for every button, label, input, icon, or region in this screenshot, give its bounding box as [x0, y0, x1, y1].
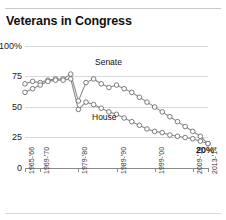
- data-point: [91, 77, 96, 82]
- data-point: [183, 124, 188, 129]
- x-tick-label: 1969-'70: [43, 147, 50, 174]
- data-point: [30, 86, 35, 91]
- data-point: [23, 82, 28, 87]
- series-label-senate: Senate: [95, 58, 122, 67]
- data-point: [61, 78, 66, 83]
- data-point: [114, 83, 119, 88]
- data-point: [145, 100, 150, 105]
- x-tick-label: 1999-'00: [158, 147, 165, 174]
- data-point: [190, 136, 195, 141]
- data-point: [160, 110, 165, 115]
- bottom-divider: [5, 213, 221, 214]
- data-point: [152, 129, 157, 134]
- x-axis: 1965-'661969-'701979-'801989-'901999-'00…: [25, 168, 208, 216]
- data-point: [145, 127, 150, 132]
- x-tick-label: 2013-'14: [211, 147, 218, 174]
- x-tick-label: 1979-'80: [81, 147, 88, 174]
- x-tick-mark: [40, 168, 41, 172]
- data-point: [122, 116, 127, 121]
- data-point: [198, 139, 203, 144]
- data-point: [129, 90, 134, 95]
- data-point: [46, 79, 51, 84]
- data-point: [91, 102, 96, 107]
- data-point: [190, 129, 195, 134]
- y-tick-label: 0: [17, 164, 22, 173]
- data-point: [38, 83, 43, 88]
- x-tick-mark: [193, 168, 194, 172]
- top-divider: [5, 8, 221, 9]
- data-point: [175, 134, 180, 139]
- series-markers: [23, 72, 211, 146]
- data-point: [68, 72, 73, 77]
- x-tick-mark: [117, 168, 118, 172]
- x-tick-mark: [155, 168, 156, 172]
- data-point: [175, 119, 180, 124]
- y-tick-label: 75: [12, 72, 22, 81]
- x-tick-mark: [208, 168, 209, 172]
- data-point: [183, 135, 188, 140]
- y-tick-label: 25: [12, 133, 22, 142]
- data-point: [53, 78, 58, 83]
- data-point: [23, 90, 28, 95]
- data-point: [99, 106, 104, 111]
- x-tick-label: 2009-'10: [196, 147, 203, 174]
- x-tick-mark: [78, 168, 79, 172]
- data-point: [84, 100, 89, 105]
- data-point: [30, 79, 35, 84]
- data-point: [129, 119, 134, 124]
- data-point: [84, 80, 89, 85]
- data-point: [152, 105, 157, 110]
- x-tick-mark: [25, 168, 26, 172]
- data-point: [160, 130, 165, 135]
- data-point: [122, 86, 127, 91]
- data-point: [137, 123, 142, 128]
- data-point: [99, 82, 104, 87]
- data-point: [198, 134, 203, 139]
- data-point: [137, 95, 142, 100]
- x-tick-label: 1989-'90: [120, 147, 127, 174]
- y-tick-label: 50: [12, 103, 22, 112]
- x-tick-label: 1965-'66: [28, 147, 35, 174]
- y-tick-label: 100%: [0, 42, 22, 51]
- data-point: [168, 133, 173, 138]
- y-axis-labels: 100% 75 50 25 0: [0, 46, 22, 176]
- data-point: [76, 99, 81, 104]
- chart-title: Veterans in Congress: [6, 14, 132, 28]
- data-point: [107, 85, 112, 90]
- series-label-house: House: [92, 113, 117, 122]
- data-point: [76, 107, 81, 112]
- chart-container: Veterans in Congress 100% 75 50 25 0 Sen…: [0, 0, 226, 220]
- data-point: [68, 77, 73, 82]
- data-point: [168, 114, 173, 119]
